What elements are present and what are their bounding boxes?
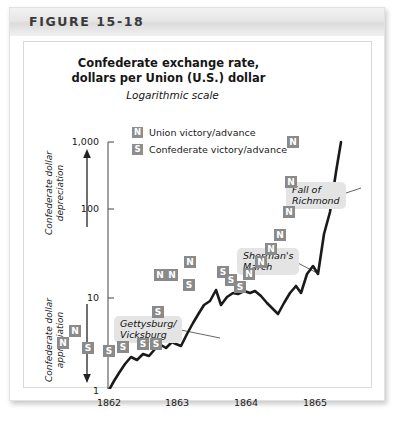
depreciation-line-1: Confederate dollar — [44, 138, 55, 248]
data-point-marker-n-17: N — [265, 243, 277, 255]
data-point-marker-n-18: N — [274, 229, 286, 241]
chart-panel: Confederate exchange rate, dollars per U… — [23, 41, 372, 388]
data-point-marker-s-5: S — [137, 338, 149, 350]
data-point-marker-n-20: N — [285, 176, 297, 188]
data-point-marker-n-19: N — [283, 206, 295, 218]
depreciation-arrow-icon — [83, 149, 91, 227]
y-axis-label-1: 1 — [65, 385, 99, 396]
depreciation-line-2: depreciation — [55, 138, 66, 248]
data-point-marker-n-8: N — [154, 269, 166, 281]
data-point-marker-s-14: S — [234, 281, 246, 293]
appreciation-line-1: Confederate dollar — [44, 285, 55, 395]
data-point-marker-s-3: S — [103, 345, 115, 357]
gettysburg-leader-line — [176, 329, 220, 338]
y-axis-annotation-depreciation: Confederate dollar depreciation — [44, 138, 66, 248]
y-axis-label-100: 100 — [65, 203, 99, 214]
data-point-marker-n-16: N — [255, 256, 267, 268]
y-axis-label-10: 10 — [65, 292, 99, 303]
data-point-marker-n-0: N — [57, 337, 69, 349]
figure-container: FIGURE 15-18 Confederate exchange rate, … — [9, 7, 385, 401]
data-point-marker-s-6: S — [150, 338, 162, 350]
figure-header: FIGURE 15-18 — [10, 8, 384, 36]
data-point-marker-s-11: S — [183, 279, 195, 291]
callout-gettysburg-line-1: Gettysburg/ — [120, 318, 176, 329]
data-point-marker-s-2: S — [82, 342, 94, 354]
data-point-marker-s-7: S — [152, 306, 164, 318]
x-axis-label-1864: 1864 — [226, 397, 266, 408]
data-point-marker-n-15: N — [243, 268, 255, 280]
x-axis-label-1863: 1863 — [157, 397, 197, 408]
data-point-marker-n-10: N — [184, 256, 196, 268]
x-axis-label-1862: 1862 — [89, 397, 129, 408]
x-axis-label-1865: 1865 — [295, 397, 335, 408]
data-point-marker-n-21: N — [287, 136, 299, 148]
y-axis-label-1000: 1,000 — [65, 136, 99, 147]
data-point-marker-s-4: S — [117, 341, 129, 353]
callout-richmond-line-2: Richmond — [292, 195, 340, 206]
figure-number-label: FIGURE 15-18 — [29, 14, 144, 29]
callout-richmond-line-1: Fall of — [292, 184, 340, 195]
data-point-marker-n-9: N — [166, 269, 178, 281]
data-point-marker-n-1: N — [69, 325, 81, 337]
